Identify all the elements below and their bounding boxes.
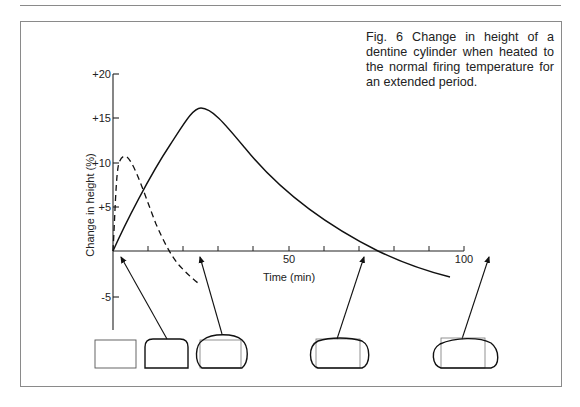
solid-curve [113, 108, 450, 277]
y-axis: +20 +15 +10 +5 -5 Change in height (%) [84, 68, 119, 330]
y-tick-label: +20 [92, 68, 111, 80]
arrow-2 [200, 257, 222, 334]
x-tick-label: 50 [283, 253, 295, 265]
y-axis-label: Change in height (%) [84, 153, 96, 256]
specimen-original [95, 340, 136, 368]
arrow-4 [462, 257, 489, 339]
arrow-3 [337, 257, 364, 339]
specimen-rounded [145, 339, 188, 368]
y-tick-label: +15 [92, 112, 111, 124]
y-tick-label: +5 [98, 201, 111, 213]
specimen-flattened [433, 339, 497, 368]
specimen-arrows [121, 257, 489, 339]
arrow-1 [121, 257, 167, 339]
x-tick-label: 100 [455, 253, 473, 265]
x-axis: 50 100 Time (min) [113, 246, 473, 283]
specimen-shapes [95, 335, 498, 368]
x-axis-label: Time (min) [263, 271, 315, 283]
y-tick-label: -5 [101, 291, 111, 303]
dashed-curve [113, 156, 198, 283]
chart-plot: +20 +15 +10 +5 -5 Change in height (%) 5… [0, 0, 580, 407]
